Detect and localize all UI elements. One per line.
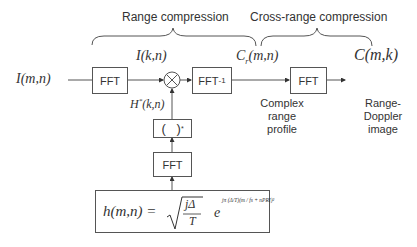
output-signal-label: C(m,k): [354, 46, 398, 64]
input-signal-label: I(m,n): [16, 71, 51, 87]
exp-exponent: jπ (Δ/T)(m / fs + nPRI)²: [222, 197, 274, 203]
sqrt-denominator: T: [189, 214, 196, 229]
range-compression-label: Range compression: [122, 10, 229, 24]
range-doppler-image-annotation: Range- Doppler image: [353, 97, 413, 136]
cross-range-compression-label: Cross-range compression: [250, 10, 387, 24]
complex-range-profile-annotation: Complex range profile: [252, 97, 312, 136]
reference-function-box: h(m,n) = jΔ T e jπ (Δ/T)(m / fs + nPRI)²: [95, 190, 270, 233]
fft-reference-block: FFT: [153, 152, 192, 177]
complex-range-signal-label: Cr(m,n): [236, 48, 278, 66]
exp-base: e: [214, 205, 220, 221]
ifft-block: FFT-1: [192, 67, 232, 94]
range-compression-brace: [92, 28, 256, 46]
spectrum-signal-label: I(k,n): [136, 48, 167, 64]
formula-lhs: h(m,n) =: [103, 203, 156, 220]
fft-input-block: FFT: [92, 67, 128, 94]
fft-cross-range-block: FFT: [290, 67, 327, 94]
sqrt-numerator: jΔ: [185, 197, 195, 212]
fft-input-label: FFT: [100, 75, 120, 87]
cross-range-compression-brace: [261, 28, 372, 46]
filter-signal-label: H*(k,n): [130, 97, 165, 112]
conjugate-block: ( )*: [153, 119, 192, 138]
